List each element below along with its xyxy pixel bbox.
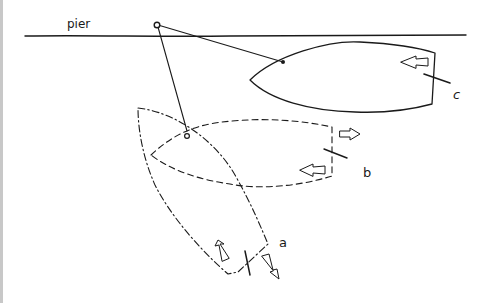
boat-maneuver-drawing (0, 0, 491, 303)
label-a: a (279, 236, 287, 249)
boat-b (151, 120, 360, 187)
arrow-left-icon (300, 164, 325, 176)
rudder-c (424, 74, 450, 83)
cleat-b-icon (185, 134, 190, 139)
label-b: b (363, 166, 371, 179)
pier-label: pier (67, 18, 90, 30)
boat-a (138, 108, 279, 279)
rudder-b (324, 149, 347, 158)
rudder-a (245, 251, 250, 275)
cleat-c-icon (281, 60, 285, 64)
pier-line (25, 35, 466, 36)
arrow-down-right-icon (262, 254, 279, 279)
diagram-canvas: pier a b c (0, 0, 491, 303)
pier-anchor-icon (154, 22, 160, 28)
label-c: c (453, 88, 460, 101)
arrow-up-left-icon (215, 240, 229, 261)
arrow-left-icon (401, 56, 428, 68)
mooring-line-a (158, 27, 187, 131)
boat-c (250, 42, 450, 112)
arrow-right-icon (340, 128, 360, 140)
mooring-line-c (158, 25, 283, 62)
